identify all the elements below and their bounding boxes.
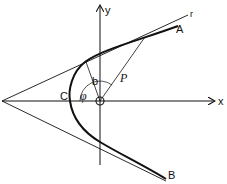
- asymptote-label: r: [190, 9, 193, 19]
- x-axis-label: x: [218, 95, 224, 107]
- branch-lower-label: B: [168, 169, 175, 181]
- asymptote-lower: [2, 101, 166, 181]
- y-axis-label: y: [105, 4, 111, 16]
- hyperbola-diagram: y x r A B C φ b P: [0, 0, 227, 184]
- radius-label: P: [119, 71, 128, 85]
- radius-line: [100, 37, 145, 101]
- impact-parameter-label: b: [92, 75, 98, 87]
- angle-label: φ: [80, 89, 87, 103]
- branch-upper-label: A: [176, 23, 184, 35]
- vertex-label: C: [60, 90, 68, 102]
